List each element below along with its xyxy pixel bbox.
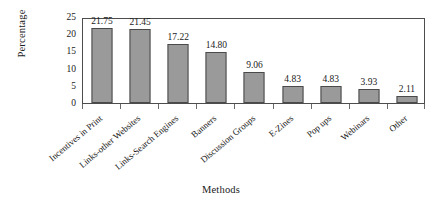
x-axis-category-labels: Incentives in PrintLinks-other WebsitesL… — [0, 0, 442, 215]
x-axis-title: Methods — [0, 184, 442, 195]
bar-chart: Percentage 0510152025 21.7521.4517.2214.… — [0, 0, 442, 215]
